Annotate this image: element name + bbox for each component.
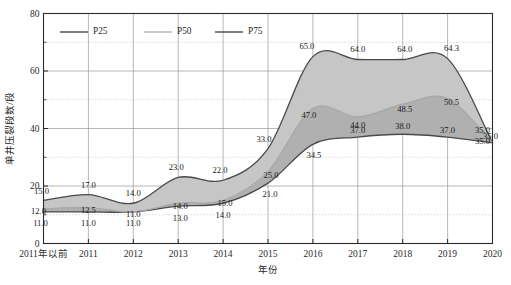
y-axis-title: 单井压裂段数/段 [4,92,15,165]
x-axis-ticks: 2011年以前201120122013201420152016201720182… [19,239,502,259]
data-label-p50: 48.5 [397,104,412,114]
data-label-p50: 25.0 [263,170,278,180]
data-label-p25: 13.0 [173,213,188,223]
data-label-p25: 37.0 [440,125,455,135]
x-tick-label: 2013 [169,249,188,259]
x-tick-label: 2018 [393,249,412,259]
x-tick-label: 2016 [303,249,322,259]
x-tick-label: 2020 [483,249,502,259]
data-label-p50: 15.0 [218,198,233,208]
data-label-p25: 34.5 [306,150,321,160]
legend-label-p25: P25 [93,26,108,36]
x-tick-label: 2012 [124,249,143,259]
x-tick-label: 2011年以前 [19,248,68,259]
chart-canvas: 0204060802011年以前201120122013201420152016… [0,0,511,285]
x-tick-label: 2015 [259,249,278,259]
legend-label-p50: P50 [177,26,192,36]
data-label-p25: 11.0 [81,218,96,228]
data-label-p75: 15.0 [34,186,49,196]
data-label-p50: 47.0 [301,110,316,120]
data-label-p25: 35.0 [483,131,498,141]
legend-label-p75: P75 [248,26,263,36]
y-tick-label: 40 [30,124,40,134]
data-label-p25: 11.0 [33,218,48,228]
data-label-p75: 14.0 [126,188,141,198]
data-label-p25: 38.0 [395,121,410,131]
data-label-p75: 17.0 [81,180,96,190]
data-label-p75: 64.0 [350,44,365,54]
data-label-p75: 64.3 [444,43,459,53]
data-label-p25: 21.0 [262,189,277,199]
data-label-p50: 50.5 [444,97,459,107]
x-tick-label: 2019 [438,249,457,259]
data-label-p25: 37.0 [350,125,365,135]
data-label-p50: 14.0 [173,201,188,211]
data-label-p25: 11.0 [126,218,141,228]
data-label-p75: 22.0 [213,165,228,175]
legend: P25P50P75 [60,26,263,36]
x-tick-label: 2014 [214,249,233,259]
data-label-p75: 64.0 [397,44,412,54]
data-label-p50: 12.5 [81,205,96,215]
y-tick-label: 60 [30,66,40,76]
x-tick-label: 2017 [348,249,367,259]
data-label-p50: 12.0 [31,206,46,216]
data-label-p25: 14.0 [216,210,231,220]
fracturing-stages-chart: 0204060802011年以前201120122013201420152016… [0,0,511,285]
y-tick-label: 80 [30,9,40,19]
x-tick-label: 2011 [79,249,98,259]
data-label-p75: 33.0 [256,134,271,144]
data-label-p75: 23.0 [169,162,184,172]
y-tick-label: 0 [35,239,40,249]
x-axis-title: 年份 [258,264,278,275]
data-label-p75: 65.0 [299,41,314,51]
